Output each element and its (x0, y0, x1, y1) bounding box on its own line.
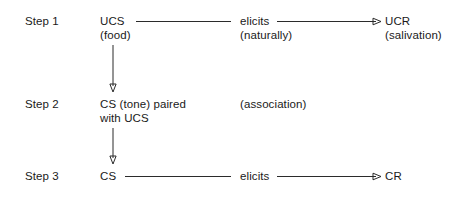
classical-conditioning-diagram: UCR --> CS (tone) (Step 2) --> CS (Step … (0, 0, 455, 201)
step-1-stimulus-ucs: UCS (100, 15, 125, 29)
arrowhead-step2-to-step3 (110, 156, 116, 164)
step-2-relation-association: (association) (240, 98, 307, 112)
step-3-response-cr: CR (385, 170, 402, 184)
step-1-label: Step 1 (25, 15, 59, 29)
step-1-stimulus-example-food: (food) (100, 29, 131, 43)
step-1-response-example-salivation: (salivation) (385, 29, 442, 43)
step-1-relation-elicits: elicits (240, 15, 269, 29)
step-1-relation-qualifier-naturally: (naturally) (240, 29, 292, 43)
step-3-stimulus-cs: CS (100, 170, 116, 184)
arrowhead-to-ucr (373, 18, 381, 25)
step-2-stimulus-line-1: CS (tone) paired (100, 98, 186, 112)
arrowhead-step1-to-step2 (110, 84, 116, 92)
step-2-stimulus-line-2: with UCS (100, 112, 149, 126)
step-2-label: Step 2 (25, 98, 59, 112)
arrowhead-to-cr (373, 173, 381, 180)
step-3-relation-elicits: elicits (240, 170, 269, 184)
step-3-label: Step 3 (25, 170, 59, 184)
step-1-response-ucr: UCR (385, 15, 410, 29)
